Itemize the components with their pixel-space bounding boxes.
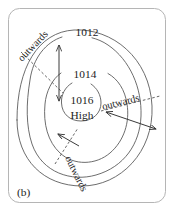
pressure-center-label: High [71,109,94,121]
panel-label: (b) [17,186,30,199]
contour-map-svg: 1012 1014 1016 High outwards outwards ou… [0,0,175,212]
figure-panel-b: 1012 1014 1016 High outwards outwards ou… [0,0,175,212]
isobar-label-1016: 1016 [71,94,94,106]
isobar-label-1014: 1014 [74,68,97,80]
isobar-label-1012: 1012 [76,26,99,38]
